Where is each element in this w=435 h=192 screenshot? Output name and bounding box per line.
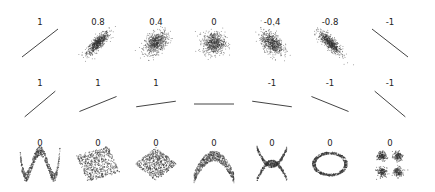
scatter-plot bbox=[301, 10, 359, 72]
scatter-plot bbox=[127, 71, 185, 133]
scatter-panel: 0 bbox=[69, 131, 127, 192]
scatter-plot bbox=[361, 10, 419, 72]
scatter-plot bbox=[361, 131, 419, 192]
scatter-plot bbox=[243, 131, 301, 192]
scatter-panel: 0 bbox=[127, 131, 185, 192]
scatter-panel: 1 bbox=[127, 71, 185, 133]
scatter-panel: -1 bbox=[243, 71, 301, 133]
scatter-panel: 0 bbox=[185, 131, 243, 192]
scatter-plot bbox=[69, 131, 127, 192]
scatter-panel: -0.4 bbox=[243, 10, 301, 72]
scatter-plot bbox=[243, 10, 301, 72]
scatter-plot bbox=[69, 10, 127, 72]
scatter-plot bbox=[69, 71, 127, 133]
scatter-plot bbox=[301, 71, 359, 133]
scatter-plot bbox=[185, 131, 243, 192]
scatter-plot bbox=[361, 71, 419, 133]
scatter-plot bbox=[185, 71, 243, 133]
scatter-plot bbox=[243, 71, 301, 133]
scatter-plot bbox=[11, 71, 69, 133]
scatter-panel: 0.8 bbox=[69, 10, 127, 72]
scatter-panel: 0 bbox=[185, 10, 243, 72]
scatter-panel: 0 bbox=[11, 131, 69, 192]
scatter-plot bbox=[11, 10, 69, 72]
scatter-panel: -1 bbox=[361, 71, 419, 133]
scatter-panel: -0.8 bbox=[301, 10, 359, 72]
scatter-plot bbox=[127, 131, 185, 192]
scatter-panel: 0 bbox=[301, 131, 359, 192]
correlation-figure: 10.80.40-0.4-0.8-1111-1-1-10000000 bbox=[0, 0, 435, 192]
scatter-panel: -1 bbox=[301, 71, 359, 133]
scatter-panel: 0 bbox=[361, 131, 419, 192]
scatter-panel: 0 bbox=[243, 131, 301, 192]
scatter-panel: 1 bbox=[11, 10, 69, 72]
scatter-panel: 1 bbox=[11, 71, 69, 133]
scatter-panel: 0.4 bbox=[127, 10, 185, 72]
scatter-panel: 1 bbox=[69, 71, 127, 133]
scatter-plot bbox=[185, 10, 243, 72]
scatter-panel bbox=[185, 71, 243, 133]
scatter-plot bbox=[127, 10, 185, 72]
scatter-plot bbox=[11, 131, 69, 192]
scatter-panel: -1 bbox=[361, 10, 419, 72]
scatter-plot bbox=[301, 131, 359, 192]
